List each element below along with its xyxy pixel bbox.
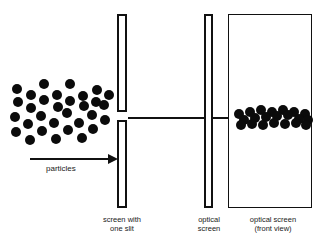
particle-dot: [291, 118, 301, 128]
particle-dot: [37, 126, 47, 136]
particle-dot: [13, 97, 23, 107]
particle-dot: [39, 95, 49, 105]
particle-dot: [26, 90, 36, 100]
particle-dot: [26, 103, 36, 113]
particle-dot: [11, 127, 21, 137]
particle-dot: [10, 112, 20, 122]
particle-dot: [87, 110, 97, 120]
particle-dot: [88, 124, 98, 134]
particle-dot: [52, 90, 62, 100]
optical-screen-bar: [204, 14, 213, 208]
particle-dot: [62, 108, 72, 118]
slit-screen-upper-bar: [117, 14, 127, 112]
particle-dot: [63, 125, 73, 135]
diagram-canvas: particles screen with one slit optical s…: [0, 0, 322, 246]
slit-screen-lower-bar: [117, 120, 127, 208]
particle-dot: [36, 111, 46, 121]
particle-dot: [269, 118, 279, 128]
caption-optical-screen: optical screen: [188, 215, 230, 233]
particle-dot: [74, 118, 84, 128]
particle-dot: [92, 85, 102, 95]
particle-dot: [236, 120, 246, 130]
particle-dot: [280, 119, 290, 129]
particle-dot: [65, 79, 75, 89]
particle-dot: [49, 118, 59, 128]
particle-dot: [25, 135, 35, 145]
particles-label: particles: [46, 164, 76, 173]
particle-dot: [12, 84, 22, 94]
particle-dot: [23, 119, 33, 129]
particle-dot: [79, 101, 89, 111]
particle-dot: [301, 120, 311, 130]
particle-dot: [100, 115, 110, 125]
particle-dot: [51, 134, 61, 144]
particle-dot: [99, 100, 109, 110]
caption-optical-screen-front-view: optical screen (front view): [230, 215, 316, 233]
particle-dot: [65, 96, 75, 106]
particle-dot: [78, 91, 88, 101]
particle-dot: [77, 133, 87, 143]
particle-direction-arrow-line: [30, 158, 108, 160]
particle-dot: [258, 120, 268, 130]
caption-screen-with-one-slit: screen with one slit: [92, 215, 152, 233]
particle-dot: [39, 79, 49, 89]
particle-dot: [104, 90, 114, 100]
particle-dot: [247, 119, 257, 129]
